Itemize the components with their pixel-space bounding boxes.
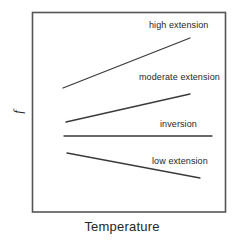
plot-area — [0, 0, 244, 249]
series-label-inversion: inversion — [160, 119, 197, 129]
figure-container: high extension moderate extension invers… — [0, 0, 244, 249]
series-label-low-extension: low extension — [152, 156, 208, 166]
y-axis-label: f — [10, 101, 26, 123]
x-axis-label: Temperature — [0, 219, 244, 234]
series-label-moderate-extension: moderate extension — [139, 72, 220, 82]
plot-frame — [33, 13, 226, 213]
line-moderate-extension — [66, 94, 190, 122]
series-label-high-extension: high extension — [149, 20, 208, 30]
